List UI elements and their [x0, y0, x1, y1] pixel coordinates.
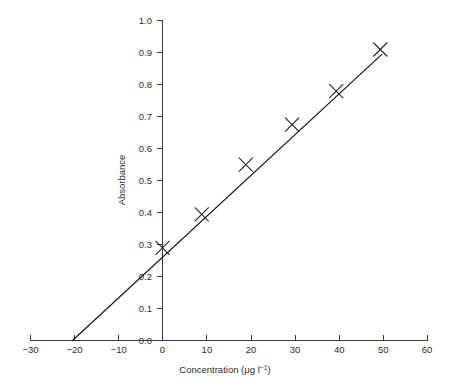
y-tick-label: 0.0: [139, 335, 152, 346]
x-tick-label: 0: [160, 344, 165, 355]
y-tick-label: 0.8: [139, 79, 152, 90]
x-tick-labels: −30 −20 −10 0 10 20 30 40 50 60: [22, 344, 432, 355]
plot-area: −30 −20 −10 0 10 20 30 40 50 60 0.0 0.1 …: [0, 0, 449, 383]
x-axis-title-tail: ): [268, 364, 271, 375]
x-tick-label: 40: [334, 344, 345, 355]
data-point-marker: [239, 158, 253, 172]
x-axis-title-main: Concentration (μg l: [179, 364, 259, 375]
x-tick-label: −10: [111, 344, 127, 355]
y-tick-label: 0.6: [139, 143, 152, 154]
y-tick-label: 0.1: [139, 303, 152, 314]
x-tick-marks: [31, 335, 428, 341]
data-point-markers: [156, 43, 388, 255]
y-tick-label: 1.0: [139, 15, 152, 26]
x-tick-label: 10: [202, 344, 213, 355]
y-tick-marks: [157, 21, 163, 341]
x-tick-label: −30: [22, 344, 38, 355]
x-tick-label: 60: [422, 344, 433, 355]
data-point-marker: [195, 207, 209, 221]
x-tick-label: 20: [246, 344, 257, 355]
y-tick-label: 0.7: [139, 111, 152, 122]
data-point-marker: [285, 118, 299, 132]
x-tick-label: −20: [67, 344, 83, 355]
x-tick-label: 50: [378, 344, 389, 355]
x-axis-title: Concentration (μg l−1): [179, 364, 270, 376]
y-axis-title: Absorbance: [116, 155, 127, 206]
y-tick-label: 0.5: [139, 175, 152, 186]
y-tick-label: 0.9: [139, 47, 152, 58]
y-tick-labels: 0.0 0.1 0.2 0.3 0.4 0.5 0.6 0.7 0.8 0.9 …: [139, 15, 152, 346]
data-point-marker: [373, 43, 387, 57]
x-tick-label: 30: [290, 344, 301, 355]
y-tick-label: 0.3: [139, 239, 152, 250]
calibration-chart-figure: −30 −20 −10 0 10 20 30 40 50 60 0.0 0.1 …: [0, 0, 449, 383]
y-tick-label: 0.4: [139, 207, 152, 218]
